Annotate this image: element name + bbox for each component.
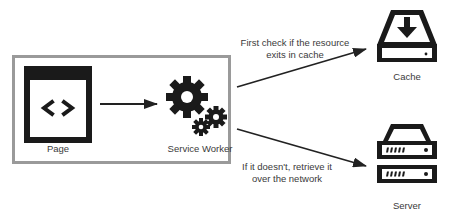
download-drive-icon bbox=[377, 10, 437, 62]
cache-check-note-line-2: exits in cache bbox=[235, 49, 355, 61]
network-fetch-note-line-2: over the network bbox=[227, 173, 347, 185]
service-worker-label: Service Worker bbox=[155, 143, 245, 155]
gears-icon bbox=[166, 76, 227, 136]
diagram-canvas bbox=[0, 0, 449, 219]
page-label: Page bbox=[28, 143, 88, 155]
code-window-icon bbox=[24, 66, 92, 143]
network-fetch-note: If it doesn't, retrieve it over the netw… bbox=[227, 161, 347, 185]
server-rack-icon bbox=[377, 124, 437, 183]
cache-check-note: First check if the resource exits in cac… bbox=[235, 37, 355, 61]
cache-label: Cache bbox=[377, 71, 437, 83]
cache-check-note-line-1: First check if the resource bbox=[235, 37, 355, 49]
server-label: Server bbox=[377, 200, 437, 212]
network-fetch-note-line-1: If it doesn't, retrieve it bbox=[227, 161, 347, 173]
